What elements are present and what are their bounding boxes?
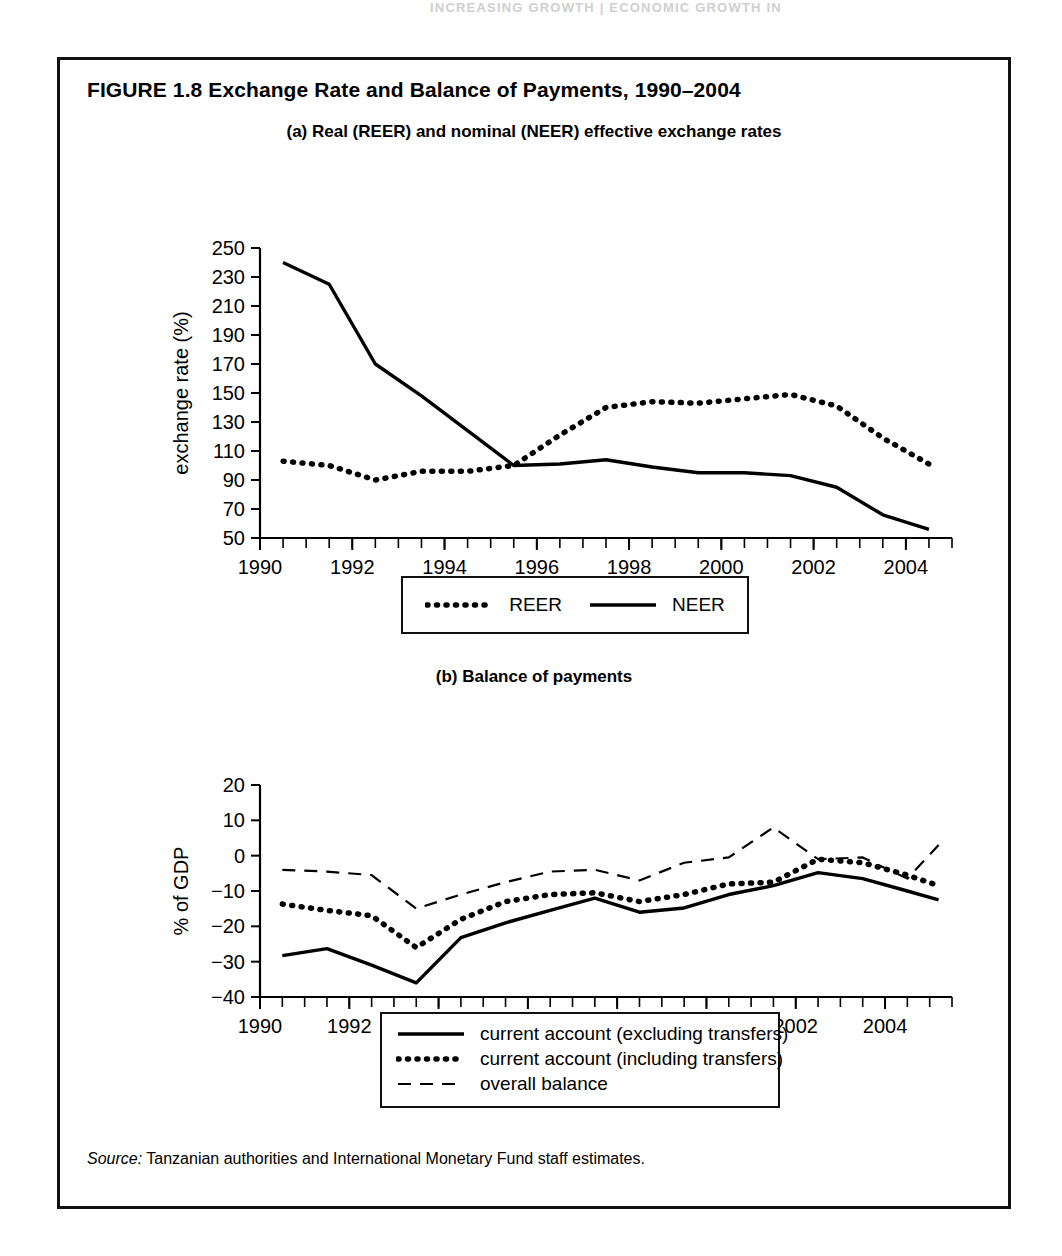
x-tick-label: 1994: [422, 556, 467, 575]
y-axis-title: exchange rate (%): [170, 311, 192, 474]
y-tick-label: 250: [212, 237, 245, 259]
figure-frame: FIGURE 1.8 Exchange Rate and Balance of …: [57, 57, 1011, 1209]
x-tick-label: 2002: [791, 556, 836, 575]
y-tick-label: 230: [212, 266, 245, 288]
panel-a-chart: 5070901101301501701902102302501990199219…: [60, 155, 1008, 575]
x-tick-label: 1992: [330, 556, 375, 575]
y-tick-label: −30: [211, 951, 245, 973]
legend-label: REER: [509, 594, 562, 616]
x-tick-label: 2004: [884, 556, 929, 575]
legend-swatch-dashed-icon: [396, 1077, 466, 1091]
y-tick-label: 20: [223, 774, 245, 796]
legend-entry-neer: NEER: [588, 594, 725, 616]
x-tick-label: 2004: [863, 1015, 908, 1037]
legend-swatch-dotted-icon: [425, 598, 495, 612]
panel-b-chart: −40−30−20−100102019901992199419961998200…: [60, 700, 1008, 1045]
legend-label: NEER: [672, 594, 725, 616]
y-tick-label: −10: [211, 880, 245, 902]
y-tick-label: 90: [223, 469, 245, 491]
source-note: Source: Tanzanian authorities and Intern…: [87, 1150, 645, 1168]
legend-label: overall balance: [480, 1073, 608, 1095]
y-tick-label: 170: [212, 353, 245, 375]
legend-label: current account (excluding transfers): [480, 1023, 788, 1045]
legend-label: current account (including transfers): [480, 1048, 783, 1070]
legend-entry-reer: REER: [425, 594, 562, 616]
x-tick-label: 1990: [238, 1015, 283, 1037]
x-tick-label: 2000: [699, 556, 744, 575]
source-label: Source:: [87, 1150, 142, 1167]
y-tick-label: 130: [212, 411, 245, 433]
y-tick-label: 10: [223, 809, 245, 831]
y-tick-label: −20: [211, 915, 245, 937]
legend-swatch-dotted-icon: [396, 1052, 466, 1066]
y-tick-label: 210: [212, 295, 245, 317]
legend-entry-dotted: current account (including transfers): [396, 1048, 778, 1070]
x-tick-label: 1998: [607, 556, 652, 575]
y-axis-title: % of GDP: [170, 847, 192, 936]
legend-swatch-solid-icon: [588, 598, 658, 612]
source-text: Tanzanian authorities and International …: [142, 1150, 645, 1167]
series-line-solid: [282, 873, 938, 983]
series-line-dotted: [283, 394, 929, 480]
y-tick-label: 0: [234, 845, 245, 867]
y-tick-label: 50: [223, 527, 245, 549]
y-tick-label: 70: [223, 498, 245, 520]
panel-a-legend: REERNEER: [401, 576, 749, 634]
x-tick-label: 1996: [515, 556, 560, 575]
legend-entry-solid: current account (excluding transfers): [396, 1023, 778, 1045]
legend-swatch-solid-icon: [396, 1027, 466, 1041]
panel-b-subtitle: (b) Balance of payments: [60, 667, 1008, 687]
y-tick-label: 110: [213, 440, 245, 462]
y-tick-label: 190: [212, 324, 245, 346]
y-tick-label: −40: [211, 986, 245, 1008]
figure-title: FIGURE 1.8 Exchange Rate and Balance of …: [87, 78, 741, 102]
x-tick-label: 1990: [238, 556, 283, 575]
legend-entry-dashed: overall balance: [396, 1073, 778, 1095]
panel-a-subtitle: (a) Real (REER) and nominal (NEER) effec…: [60, 122, 1008, 142]
page-header-ghost-text: INCREASING GROWTH | ECONOMIC GROWTH IN: [430, 0, 1030, 16]
series-line-solid: [283, 263, 929, 530]
x-tick-label: 1992: [327, 1015, 372, 1037]
y-tick-label: 150: [212, 382, 245, 404]
panel-b-legend: current account (excluding transfers)cur…: [380, 1012, 780, 1108]
